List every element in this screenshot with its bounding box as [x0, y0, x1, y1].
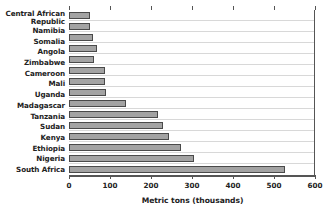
x-tick-label: 400: [225, 181, 240, 190]
bar-row: [69, 76, 314, 87]
x-tick-top: [69, 6, 70, 10]
category-label: Nigeria: [0, 154, 68, 165]
bar-row: [69, 142, 314, 153]
x-tick-label: 500: [266, 181, 281, 190]
bar-row: [69, 54, 314, 65]
category-label: Zimbabwe: [0, 57, 68, 68]
x-tick-label: 100: [102, 181, 117, 190]
bar-row: [69, 43, 314, 54]
bar-row: [69, 65, 314, 76]
bar: [69, 122, 163, 129]
bar: [69, 56, 94, 63]
bar: [69, 78, 105, 85]
category-label: Kenya: [0, 132, 68, 143]
category-label: Namibia: [0, 25, 68, 36]
x-tick-top: [233, 6, 234, 10]
x-axis-title: Metric tons (thousands): [69, 196, 316, 205]
bar: [69, 89, 106, 96]
bar-row: [69, 153, 314, 164]
x-tick: [151, 175, 152, 179]
bar-row: [69, 131, 314, 142]
category-label: Somalia: [0, 36, 68, 47]
x-tick-label: 200: [143, 181, 158, 190]
category-label: Uganda: [0, 89, 68, 100]
bar: [69, 34, 93, 41]
x-tick: [110, 175, 111, 179]
bar-row: [69, 87, 314, 98]
x-tick-top: [274, 6, 275, 10]
bar-row: [69, 109, 314, 120]
bar: [69, 133, 169, 140]
bar-row: [69, 164, 314, 175]
bar-row: [69, 10, 314, 21]
bar-row: [69, 98, 314, 109]
category-label: Angola: [0, 47, 68, 58]
x-tick-label: 0: [66, 181, 71, 190]
bar: [69, 166, 285, 173]
bar: [69, 111, 158, 118]
x-tick-top: [110, 6, 111, 10]
category-label: Tanzania: [0, 111, 68, 122]
category-label: Ethiopia: [0, 143, 68, 154]
bar: [69, 155, 194, 162]
x-tick: [233, 175, 234, 179]
plot-area: [69, 10, 315, 175]
bar-row: [69, 32, 314, 43]
x-tick: [192, 175, 193, 179]
bar: [69, 23, 90, 30]
bar-chart: Central African RepublicNamibiaSomaliaAn…: [0, 0, 323, 223]
x-tick-top: [151, 6, 152, 10]
bar: [69, 144, 181, 151]
bar: [69, 67, 105, 74]
x-tick: [315, 175, 316, 179]
x-tick-top: [315, 6, 316, 10]
category-label: Cameroon: [0, 68, 68, 79]
bar: [69, 100, 126, 107]
bar: [69, 12, 90, 19]
category-label: South Africa: [0, 164, 68, 175]
bar-row: [69, 120, 314, 131]
category-label: Madagascar: [0, 100, 68, 111]
x-tick: [274, 175, 275, 179]
x-tick-label: 300: [184, 181, 199, 190]
category-axis-labels: Central African RepublicNamibiaSomaliaAn…: [0, 10, 68, 175]
category-label: Mali: [0, 79, 68, 90]
x-tick-label: 600: [307, 181, 322, 190]
x-tick: [69, 175, 70, 179]
category-label: Central African Republic: [0, 10, 68, 25]
x-tick-top: [192, 6, 193, 10]
bar-row: [69, 21, 314, 32]
bar: [69, 45, 97, 52]
category-label: Sudan: [0, 121, 68, 132]
